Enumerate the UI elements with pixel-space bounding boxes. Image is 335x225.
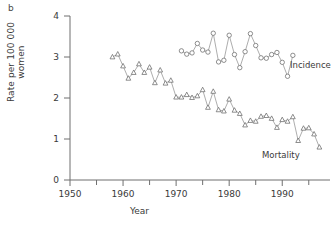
data-point [243,49,247,53]
y-axis: 01234 [53,11,70,185]
chart-canvas: 01234 19501960197019801990 IncidenceMort… [0,0,335,225]
data-point [179,95,184,99]
x-tick-label: 1960 [112,189,135,199]
x-axis: 19501960197019801990 [59,180,330,199]
series-label-incidence: Incidence [290,60,331,70]
data-point [131,70,136,74]
series-line-mortality [112,54,319,147]
y-tick-label: 1 [53,134,59,144]
data-point [110,54,115,58]
x-tick-label: 1980 [218,189,241,199]
y-tick-label: 4 [53,11,59,21]
data-point [153,80,158,84]
data-point [211,89,216,93]
data-point [243,122,248,126]
data-point [211,31,215,35]
data-point [264,56,268,60]
data-point [168,78,173,82]
data-point [285,74,289,78]
data-point [269,116,274,120]
plot-area [110,31,322,149]
data-point [174,95,179,99]
data-point [248,118,253,122]
data-point [248,31,252,35]
data-point [190,51,194,55]
data-point [269,52,273,56]
data-point [280,117,285,121]
data-point [184,92,189,96]
data-point [222,58,226,62]
data-point [280,60,284,64]
data-point [290,114,295,118]
data-point [137,61,142,65]
data-point [232,108,237,112]
data-point [121,63,126,67]
y-tick-label: 2 [53,93,59,103]
data-point [275,50,279,54]
data-point [238,65,242,69]
data-point [206,50,210,54]
data-point [227,97,232,101]
x-tick-label: 1990 [271,189,294,199]
data-point [237,111,242,115]
series-labels: IncidenceMortality [262,60,331,160]
data-point [195,41,199,45]
data-point [227,33,231,37]
data-point [185,52,189,56]
x-tick-label: 1950 [59,189,82,199]
data-point [232,52,236,56]
data-point [200,87,205,91]
data-point [147,65,152,69]
data-point [296,138,301,142]
y-tick-label: 0 [53,175,59,185]
data-point [306,125,311,129]
data-point [200,48,204,52]
data-point [163,81,168,85]
series-label-mortality: Mortality [262,150,300,160]
data-point [216,60,220,64]
data-point [216,107,221,111]
data-point [254,43,258,47]
data-point [291,53,295,57]
y-tick-label: 3 [53,52,59,62]
data-point [259,56,263,60]
data-point [206,105,211,109]
x-tick-label: 1970 [165,189,188,199]
data-point [179,49,183,53]
data-point [264,113,269,117]
data-point [115,52,120,56]
data-point [317,145,322,149]
data-point [158,68,163,72]
chart-figure: b Rate per 100 000 women Year 01234 1950… [0,0,335,225]
